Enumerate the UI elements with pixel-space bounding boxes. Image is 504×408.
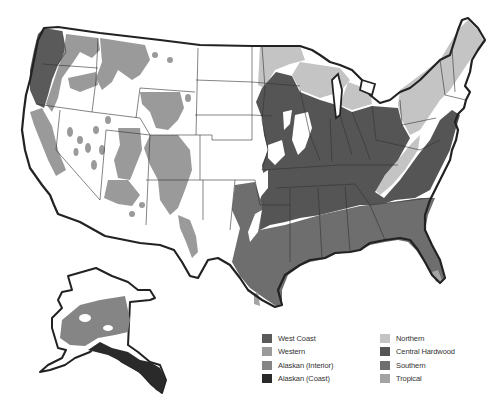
- legend-label: West Coast: [278, 334, 316, 343]
- northern-swatch-icon: [380, 334, 390, 343]
- map-legend: West Coast Western Alaskan (Interior) Al…: [262, 332, 502, 388]
- legend-label: Alaskan (Coast): [278, 374, 330, 383]
- legend-label: Tropical: [396, 374, 422, 383]
- legend-label: Alaskan (Interior): [278, 361, 333, 370]
- legend-item-west-coast: West Coast: [262, 332, 333, 345]
- legend-item-northern: Northern: [380, 332, 455, 345]
- legend-label: Southern: [396, 361, 426, 370]
- western-swatch-icon: [262, 347, 272, 356]
- alaska-non-forest: [79, 314, 91, 322]
- alaskan-interior-swatch-icon: [262, 361, 272, 370]
- legend-label: Northern: [396, 334, 424, 343]
- legend-column-left: West Coast Western Alaskan (Interior) Al…: [262, 332, 333, 385]
- tropical-swatch-icon: [380, 374, 390, 383]
- legend-label: Central Hardwood: [396, 347, 455, 356]
- southern-swatch-icon: [380, 361, 390, 370]
- central-hardwood-swatch-icon: [380, 347, 390, 356]
- legend-item-western: Western: [262, 345, 333, 358]
- legend-item-southern: Southern: [380, 359, 455, 372]
- legend-item-central-hardwood: Central Hardwood: [380, 345, 455, 358]
- legend-item-alaskan-coast: Alaskan (Coast): [262, 372, 333, 385]
- alaska-non-forest-2: [103, 325, 113, 331]
- legend-label: Western: [278, 347, 305, 356]
- legend-item-tropical: Tropical: [380, 372, 455, 385]
- alaska: [40, 268, 166, 393]
- contiguous-us: [22, 18, 485, 307]
- legend-column-right: Northern Central Hardwood Southern Tropi…: [380, 332, 455, 385]
- alaskan-coast-swatch-icon: [262, 374, 272, 383]
- legend-item-alaskan-interior: Alaskan (Interior): [262, 359, 333, 372]
- west-coast-swatch-icon: [262, 334, 272, 343]
